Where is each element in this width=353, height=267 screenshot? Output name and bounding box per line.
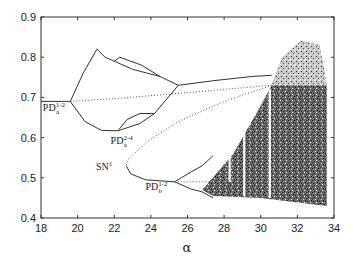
branch-curve	[175, 156, 213, 182]
y-tick-label: 0.5	[21, 172, 36, 184]
y-tick-label: 0.4	[21, 212, 36, 224]
x-tick-label: 28	[218, 222, 230, 234]
branch-curve	[70, 49, 178, 101]
x-tick-label: 30	[255, 222, 267, 234]
chaotic-region-cap	[272, 41, 327, 85]
annotation-subscript: a	[124, 141, 128, 149]
annotation-label: PD2-4	[111, 134, 134, 146]
x-tick-label: 32	[291, 222, 303, 234]
annotation-label: PD1-2	[43, 101, 66, 113]
plot-area	[41, 41, 327, 206]
x-tick-label: 20	[72, 222, 84, 234]
annotation-label: SN1	[96, 160, 113, 172]
annotations: PD1-2aPD2-4aSN1PD1-2b	[43, 101, 168, 194]
annotation-subscript: b	[159, 187, 163, 195]
x-tick-label: 24	[145, 222, 157, 234]
branch-curve	[178, 75, 271, 85]
branch-curve	[70, 85, 178, 131]
x-axis-label: α	[183, 240, 192, 255]
y-tick-label: 0.9	[21, 11, 36, 23]
bifurcation-chart: 1820222426283032340.40.50.60.70.80.9 α P…	[0, 0, 353, 267]
y-tick-label: 0.7	[21, 91, 36, 103]
x-tick-label: 34	[328, 222, 340, 234]
x-tick-label: 18	[35, 222, 47, 234]
y-tick-label: 0.6	[21, 132, 36, 144]
annotation-subscript: a	[56, 108, 60, 116]
branch-curve	[118, 114, 155, 131]
annotation-label: PD1-2	[145, 180, 168, 192]
branch-curve	[114, 57, 160, 76]
x-tick-label: 22	[108, 222, 120, 234]
y-tick-label: 0.8	[21, 51, 36, 63]
x-tick-label: 26	[181, 222, 193, 234]
